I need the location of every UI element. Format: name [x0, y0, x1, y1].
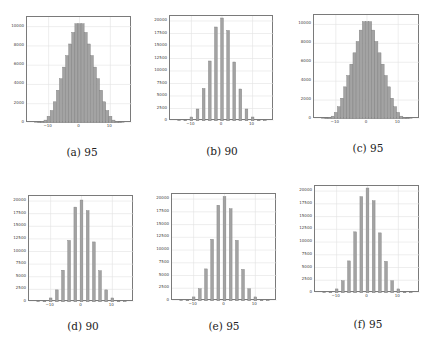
histogram-bar — [215, 27, 218, 121]
histogram-bar — [372, 30, 375, 119]
x-tick-label: −10 — [328, 294, 344, 298]
x-tick-label: −10 — [42, 303, 58, 307]
histogram-bar — [84, 32, 87, 123]
histogram-plot-e — [171, 193, 276, 300]
y-tick-label: 15000 — [147, 43, 167, 47]
x-tick-label: −10 — [182, 122, 198, 126]
histogram-bar — [100, 90, 103, 123]
histogram-bar — [344, 87, 347, 119]
y-tick-label: 15000 — [149, 222, 169, 226]
histogram-bar — [400, 116, 403, 119]
y-tick-label: 2500 — [6, 286, 26, 290]
y-tick-label: 5000 — [147, 93, 167, 97]
histogram-bar — [109, 116, 112, 123]
histogram-bar — [406, 118, 409, 119]
histogram-plot-c — [313, 14, 419, 118]
histogram-bar — [233, 62, 236, 121]
y-tick-label: 10000 — [147, 68, 167, 72]
histogram-bar — [217, 205, 220, 301]
y-tick-label: 2500 — [149, 285, 169, 289]
histogram-bar — [59, 79, 62, 123]
x-tick-label: 0 — [358, 120, 374, 124]
y-tick-label: 6000 — [291, 59, 311, 63]
histogram-bar — [115, 122, 118, 123]
histogram-plot-f — [314, 185, 419, 292]
y-tick-label: 7500 — [147, 81, 167, 85]
x-tick-label: 0 — [71, 124, 87, 128]
x-tick-label: −10 — [40, 124, 56, 128]
histogram-bar — [248, 289, 251, 301]
histogram-bar — [385, 261, 388, 293]
histogram-bar — [208, 61, 211, 121]
histogram-bar — [118, 122, 121, 123]
histogram-bar — [348, 261, 351, 293]
histogram-bar — [227, 31, 230, 122]
y-tick-label: 15000 — [6, 223, 26, 227]
y-tick-label: 7500 — [149, 260, 169, 264]
histogram-bar — [105, 290, 108, 302]
y-tick-label: 0 — [6, 299, 26, 303]
y-tick-label: 5000 — [292, 265, 312, 269]
histogram-bar — [403, 118, 406, 119]
histogram-plot-a — [26, 16, 131, 122]
y-tick-label: 5000 — [149, 273, 169, 277]
histogram-bar — [359, 30, 362, 119]
y-tick-label: 12500 — [147, 56, 167, 60]
histogram-bar — [50, 110, 53, 123]
histogram-bar — [394, 107, 397, 119]
y-tick-label: 6000 — [4, 62, 24, 66]
histogram-plot-b — [169, 15, 273, 120]
y-tick-label: 8000 — [291, 40, 311, 44]
caption-e: (e) 95 — [174, 320, 274, 332]
histogram-bar — [381, 64, 384, 119]
histogram-bar — [378, 53, 381, 119]
caption-c: (c) 95 — [318, 142, 418, 154]
y-tick-label: 12500 — [292, 226, 312, 230]
histogram-bar — [375, 41, 378, 119]
x-tick-label: 10 — [246, 302, 262, 306]
histogram-bar — [68, 240, 71, 302]
histogram-bar — [74, 207, 77, 302]
histogram-bar — [63, 67, 66, 123]
x-tick-label: −10 — [185, 302, 201, 306]
histogram-bar — [245, 109, 248, 121]
histogram-bar — [78, 24, 81, 123]
y-tick-label: 7500 — [292, 252, 312, 256]
x-tick-label: 10 — [244, 122, 260, 126]
y-tick-label: 10000 — [6, 249, 26, 253]
histogram-bar — [397, 112, 400, 119]
histogram-bar — [384, 76, 387, 119]
histogram-bar — [360, 197, 363, 293]
histogram-bar — [75, 24, 78, 123]
histogram-bar — [93, 67, 96, 123]
y-tick-label: 4000 — [291, 78, 311, 82]
y-tick-label: 10000 — [149, 247, 169, 251]
histogram-bar — [390, 98, 393, 119]
histogram-bar — [221, 18, 224, 121]
histogram-bar — [353, 53, 356, 119]
histogram-bar — [337, 107, 340, 119]
x-tick-label: 0 — [73, 303, 89, 307]
y-tick-label: 20000 — [6, 198, 26, 202]
histogram-bar — [47, 116, 50, 123]
histogram-bar — [239, 89, 242, 121]
y-tick-label: 17500 — [292, 201, 312, 205]
y-tick-label: 17500 — [149, 209, 169, 213]
histogram-bar — [356, 41, 359, 119]
histogram-bar — [117, 301, 120, 302]
histogram-bar — [391, 281, 394, 293]
x-tick-label: 10 — [103, 303, 119, 307]
histogram-bar — [341, 98, 344, 119]
x-tick-label: 0 — [213, 122, 229, 126]
y-tick-label: 15000 — [292, 214, 312, 218]
histogram-bar — [229, 209, 232, 301]
histogram-bar — [347, 76, 350, 119]
x-tick-label: 10 — [389, 120, 405, 124]
y-tick-label: 2500 — [147, 106, 167, 110]
y-tick-label: 10000 — [4, 24, 24, 28]
histogram-bar — [242, 269, 245, 301]
histogram-bar — [55, 290, 58, 302]
caption-d: (d) 90 — [33, 320, 133, 332]
histogram-bar — [403, 292, 406, 293]
histogram-bar — [341, 281, 344, 293]
